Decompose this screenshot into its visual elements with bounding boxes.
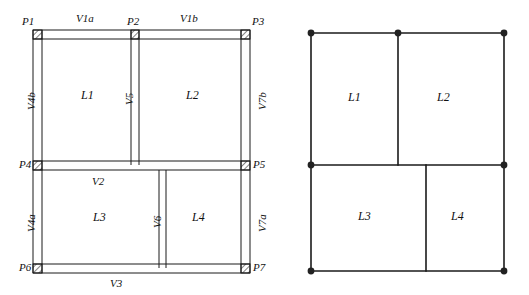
detailed-wall-plan: P1 P2 P3 P4 P5 P6 P7 V1a V1b V2 V3 V4b V… [0,0,290,295]
joint-P4 [33,161,42,170]
joint-label-P1: P1 [22,16,34,27]
wall-label-V7b: V7b [257,92,268,110]
node-top-right [501,30,508,37]
wall-label-V2: V2 [92,176,104,187]
joint-P6 [33,264,42,273]
wall-label-V4a: V4a [26,214,37,232]
joint-P7 [241,264,250,273]
node-mid-left [308,162,315,169]
node-dots [308,30,508,275]
joint-label-P7: P7 [253,262,265,273]
detailed-plan-svg [0,0,290,295]
joint-label-P5: P5 [253,159,265,170]
room-label-L2: L2 [186,89,199,101]
simplified-line-model: L1 L2 L3 L4 [290,0,529,295]
node-bottom-left [308,268,315,275]
wall-label-V1a: V1a [76,13,94,24]
node-mid-right [501,162,508,169]
wall-label-V7a: V7a [257,214,268,232]
node-bottom-right [501,268,508,275]
node-top-middle [395,30,402,37]
joint-label-P4: P4 [19,159,31,170]
joint-label-P2: P2 [127,16,139,27]
joint-P1 [33,30,42,39]
room-label-L4: L4 [192,211,205,223]
joint-label-P6: P6 [19,262,31,273]
wall-label-V6: V6 [152,216,163,228]
joint-P5 [241,161,250,170]
simplified-model-svg [290,0,529,295]
joint-label-P3: P3 [252,16,264,27]
joint-P3 [241,30,250,39]
room-label-L1: L1 [81,89,94,101]
wall-label-V3: V3 [110,278,122,289]
figure-root: P1 P2 P3 P4 P5 P6 P7 V1a V1b V2 V3 V4b V… [0,0,529,295]
wall-label-V4b: V4b [26,92,37,110]
wall-label-V1b: V1b [180,13,198,24]
model-room-label-L1: L1 [348,91,361,103]
wall-label-V5: V5 [124,93,135,105]
room-label-L3: L3 [93,211,106,223]
model-room-label-L2: L2 [437,91,450,103]
model-room-label-L3: L3 [358,210,371,222]
joint-P2 [131,30,139,39]
model-room-label-L4: L4 [451,210,464,222]
node-top-left [308,30,315,37]
